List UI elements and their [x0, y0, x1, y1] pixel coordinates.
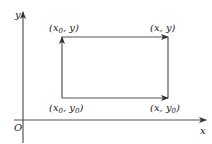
- origin-label: O: [14, 122, 22, 133]
- label-bottom-left: (x0, y0): [49, 102, 84, 115]
- label-top-left: (x0, y): [49, 22, 79, 35]
- label-top-right: (x, y): [150, 22, 176, 33]
- coordinate-diagram: y x O (x0, y) (x, y) (x0, y0) (x, y0): [0, 0, 212, 144]
- y-axis-label: y: [14, 9, 21, 20]
- x-axis-label: x: [200, 125, 206, 136]
- label-bottom-right: (x, y0): [150, 102, 180, 115]
